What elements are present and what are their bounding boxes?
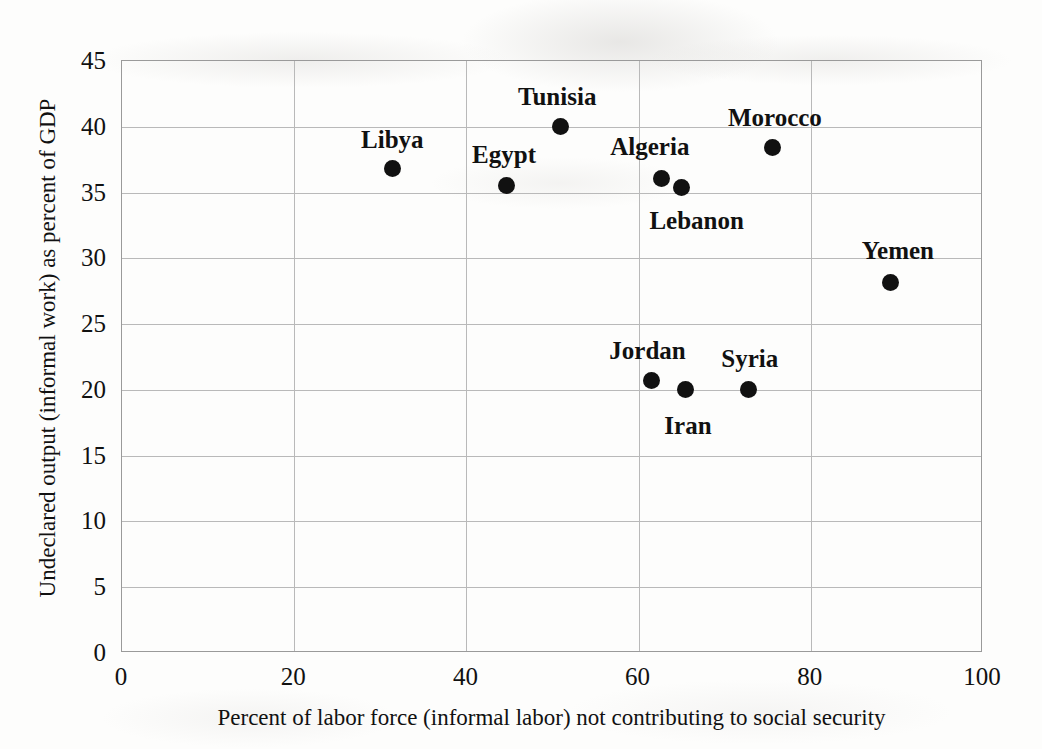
data-point bbox=[882, 274, 899, 291]
x-axis-title: Percent of labor force (informal labor) … bbox=[121, 705, 982, 731]
data-point bbox=[677, 381, 694, 398]
data-point bbox=[384, 160, 401, 177]
data-point bbox=[498, 177, 515, 194]
gridline-horizontal bbox=[122, 456, 981, 457]
y-axis-title: Undeclared output (informal work) as per… bbox=[35, 48, 61, 648]
data-point-label: Morocco bbox=[728, 104, 822, 129]
data-point-label: Yemen bbox=[862, 238, 934, 263]
data-point bbox=[740, 381, 757, 398]
x-tick-label: 40 bbox=[453, 664, 478, 689]
y-tick-label: 25 bbox=[81, 311, 106, 336]
data-point-label: Jordan bbox=[609, 337, 685, 362]
data-point bbox=[552, 118, 569, 135]
gridline-horizontal bbox=[122, 193, 981, 194]
y-tick-label: 0 bbox=[94, 640, 107, 665]
gridline-vertical bbox=[294, 61, 295, 651]
x-tick-label: 80 bbox=[797, 664, 822, 689]
gridline-horizontal bbox=[122, 587, 981, 588]
y-tick-label: 20 bbox=[81, 376, 106, 401]
y-axis-tick-labels: 051015202530354045 bbox=[60, 0, 106, 749]
x-tick-label: 100 bbox=[963, 664, 1001, 689]
data-point-label: Algeria bbox=[610, 134, 689, 159]
x-tick-label: 0 bbox=[115, 664, 128, 689]
y-tick-label: 35 bbox=[81, 179, 106, 204]
data-point-label: Egypt bbox=[472, 141, 536, 166]
gridline-horizontal bbox=[122, 324, 981, 325]
y-tick-label: 15 bbox=[81, 442, 106, 467]
data-point-label: Syria bbox=[721, 345, 778, 370]
y-tick-label: 5 bbox=[94, 574, 107, 599]
gridline-horizontal bbox=[122, 521, 981, 522]
x-tick-label: 60 bbox=[625, 664, 650, 689]
y-tick-label: 45 bbox=[81, 48, 106, 73]
y-tick-label: 40 bbox=[81, 113, 106, 138]
y-tick-label: 10 bbox=[81, 508, 106, 533]
data-point bbox=[653, 170, 670, 187]
chart-page: LibyaEgyptTunisiaAlgeriaLebanonMoroccoYe… bbox=[0, 0, 1042, 749]
y-tick-label: 30 bbox=[81, 245, 106, 270]
x-axis-tick-labels: 020406080100 bbox=[0, 664, 1042, 698]
data-point bbox=[764, 139, 781, 156]
data-point-label: Iran bbox=[664, 412, 711, 437]
data-point bbox=[643, 372, 660, 389]
x-tick-label: 20 bbox=[281, 664, 306, 689]
data-point bbox=[673, 179, 690, 196]
data-point-label: Lebanon bbox=[649, 208, 743, 233]
gridline-vertical bbox=[466, 61, 467, 651]
gridline-vertical bbox=[811, 61, 812, 651]
data-point-label: Tunisia bbox=[518, 83, 596, 108]
gridline-horizontal bbox=[122, 390, 981, 391]
gridline-horizontal bbox=[122, 258, 981, 259]
data-point-label: Libya bbox=[361, 126, 424, 151]
plot-area: LibyaEgyptTunisiaAlgeriaLebanonMoroccoYe… bbox=[121, 60, 982, 652]
